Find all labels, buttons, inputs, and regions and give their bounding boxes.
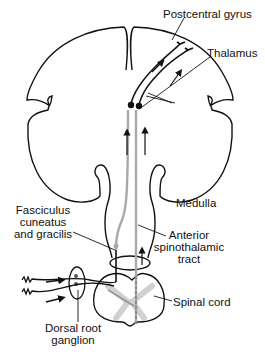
label-anterior-spinothalamic: Anterior spinothalamic tract bbox=[150, 229, 228, 265]
label-drg-line2: ganglion bbox=[40, 334, 106, 346]
label-fasciculus-line2: cuneatus bbox=[8, 216, 78, 228]
label-medulla: Medulla bbox=[176, 197, 216, 209]
label-thalamus: Thalamus bbox=[207, 47, 258, 59]
label-dorsal-root-ganglion: Dorsal root ganglion bbox=[40, 322, 106, 346]
label-anterior-line3: tract bbox=[150, 253, 228, 265]
label-anterior-line1: Anterior bbox=[150, 229, 228, 241]
label-fasciculus: Fasciculus cuneatus and gracilis bbox=[8, 204, 78, 240]
label-drg-line1: Dorsal root bbox=[40, 322, 106, 334]
label-anterior-line2: spinothalamic bbox=[150, 241, 228, 253]
spinal-cord bbox=[94, 273, 165, 326]
label-fasciculus-line1: Fasciculus bbox=[8, 204, 78, 216]
label-postcentral-gyrus: Postcentral gyrus bbox=[163, 8, 252, 20]
label-spinal-cord: Spinal cord bbox=[173, 296, 231, 308]
label-fasciculus-line3: and gracilis bbox=[8, 228, 78, 240]
thalamocortical-radiation bbox=[131, 42, 193, 105]
